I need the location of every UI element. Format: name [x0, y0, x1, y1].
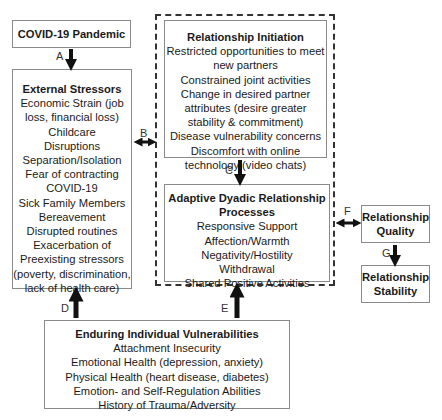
path-label-f: F — [344, 205, 351, 217]
arrows-layer — [0, 0, 442, 420]
path-label-g: G — [382, 247, 391, 259]
path-label-a: A — [56, 50, 63, 62]
path-label-b: B — [140, 127, 147, 139]
path-label-e: E — [221, 302, 228, 314]
path-label-c: C — [225, 164, 233, 176]
path-label-d: D — [61, 302, 69, 314]
